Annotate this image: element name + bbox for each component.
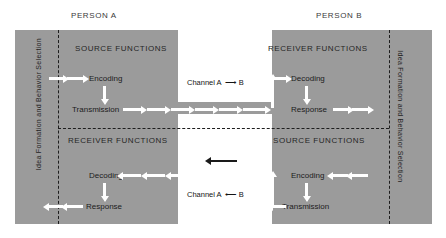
arrow-encoding-to-transmission-b bbox=[305, 183, 308, 196]
arrow-channel-riser-up-a bbox=[271, 177, 274, 205]
channel-gap-top bbox=[178, 30, 272, 102]
divider-vertical-left bbox=[58, 30, 59, 224]
arrow-left-icon: ⟵ bbox=[225, 190, 236, 199]
direction-arrow-icon bbox=[211, 160, 237, 162]
arrow-decoding-to-response-b bbox=[305, 86, 308, 99]
divider-horizontal-mid bbox=[58, 128, 389, 129]
step-response-person-b: Response bbox=[291, 105, 327, 114]
arrow-transmission-a-to-b-4 bbox=[195, 108, 213, 111]
step-encoding-person-a: Encoding bbox=[89, 74, 122, 83]
arrow-right-icon: ⟶ bbox=[225, 78, 236, 87]
arrow-response-to-idea-a-2 bbox=[49, 205, 63, 208]
arrow-transmission-b-to-a-4 bbox=[171, 174, 189, 177]
channel-top-text-before: Channel A bbox=[187, 78, 222, 87]
communication-model-diagram: PERSON A PERSON B SOURCE FUNCTIONS Encod… bbox=[0, 0, 446, 238]
arrow-transmission-a-to-b-1 bbox=[123, 108, 141, 111]
arrow-decoding-to-response-a bbox=[103, 183, 106, 196]
arrow-idea-to-encoding-b-1 bbox=[352, 174, 368, 177]
arrow-channel-riser-up-b bbox=[271, 80, 274, 108]
quadrant-title-bottom-left: RECEIVER FUNCTIONS bbox=[68, 136, 168, 145]
step-encoding-person-b: Encoding bbox=[291, 171, 324, 180]
arrow-transmission-b-to-a-1 bbox=[243, 174, 265, 177]
channel-gap-bottom bbox=[178, 114, 272, 224]
side-label-left: Idea Formation and Behavior Selection bbox=[35, 50, 44, 170]
step-response-person-a: Response bbox=[86, 202, 122, 211]
arrow-response-to-idea-b-1 bbox=[333, 108, 348, 111]
arrow-transmission-b-to-a-3 bbox=[195, 174, 213, 177]
arrow-response-to-idea-a-1 bbox=[67, 205, 83, 208]
step-transmission-person-a: Transmission bbox=[72, 105, 119, 114]
quadrant-title-top-left: SOURCE FUNCTIONS bbox=[75, 44, 167, 53]
arrow-encoding-to-transmission-a bbox=[103, 86, 106, 99]
arrow-transmission-b-to-a-5 bbox=[147, 174, 165, 177]
person-b-label: PERSON B bbox=[316, 11, 362, 20]
arrow-transmission-b-to-a-6 bbox=[123, 174, 141, 177]
diagram-panel: SOURCE FUNCTIONS Encoding Transmission R… bbox=[15, 30, 432, 224]
step-decoding-person-b: Decoding bbox=[291, 74, 325, 83]
arrow-transmission-a-to-b-2 bbox=[147, 108, 165, 111]
arrow-transmission-a-to-b-3 bbox=[171, 108, 189, 111]
arrow-transmission-a-to-b-5 bbox=[219, 108, 237, 111]
channel-top-text-after: B bbox=[239, 78, 244, 87]
arrow-transmission-b-to-a-2 bbox=[219, 174, 237, 177]
channel-bottom-text-before: Channel A bbox=[187, 190, 222, 199]
divider-vertical-right bbox=[389, 30, 390, 224]
side-label-right: Idea Formation and Behavior Selection bbox=[396, 50, 405, 170]
person-a-label: PERSON A bbox=[71, 11, 117, 20]
arrow-idea-to-encoding-b-2 bbox=[333, 174, 348, 177]
step-transmission-person-b: Transmission bbox=[282, 202, 329, 211]
quadrant-title-top-right: RECEIVER FUNCTIONS bbox=[268, 44, 368, 53]
arrow-response-to-idea-b-2 bbox=[352, 108, 368, 111]
channel-bottom-text-after: B bbox=[239, 190, 244, 199]
arrow-into-decoding-b bbox=[273, 77, 286, 80]
channel-label-bottom: Channel A ⟵ B bbox=[187, 190, 244, 199]
channel-label-top: Channel A ⟶ B bbox=[187, 78, 244, 87]
arrow-transmission-a-to-b-6 bbox=[243, 108, 265, 111]
arrow-transmission-out-b bbox=[273, 205, 286, 208]
arrow-idea-to-encoding-a-1 bbox=[49, 77, 63, 80]
quadrant-title-bottom-right: SOURCE FUNCTIONS bbox=[273, 136, 365, 145]
arrow-idea-to-encoding-a-2 bbox=[67, 77, 83, 80]
